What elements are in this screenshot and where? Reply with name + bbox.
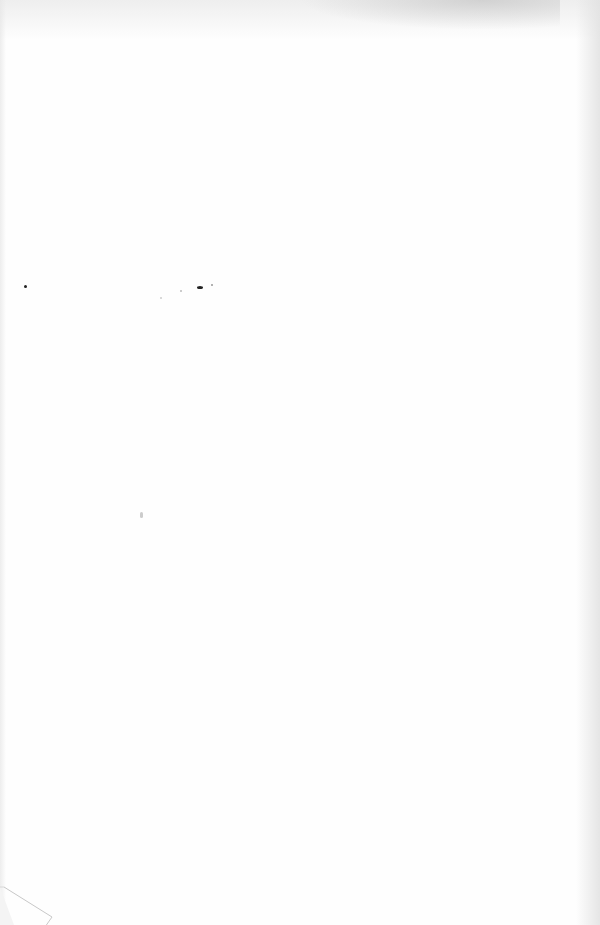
right-edge-shadow xyxy=(576,0,600,925)
left-edge-shadow xyxy=(0,0,6,925)
ink-speck xyxy=(197,286,203,289)
ink-speck xyxy=(160,297,162,299)
ink-speck xyxy=(211,284,213,286)
ink-speck xyxy=(180,290,182,292)
ink-speck xyxy=(140,512,143,518)
ink-speck xyxy=(24,285,27,288)
scan-smudge xyxy=(300,0,560,30)
blank-page xyxy=(0,0,600,925)
folded-corner xyxy=(0,865,60,925)
